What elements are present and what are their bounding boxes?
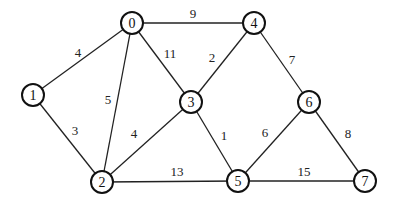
edge-weight-label: 4 [131,126,138,141]
node-1: 1 [22,84,44,106]
node-label: 3 [188,95,195,110]
edge-weight-label: 5 [105,92,112,107]
edge-weight-label: 3 [72,123,79,138]
node-label: 7 [362,174,369,189]
edge-weight-label: 13 [171,164,184,179]
node-label: 1 [30,88,37,103]
edge-weight-label: 6 [262,125,269,140]
node-label: 4 [251,16,258,31]
node-2: 2 [91,171,113,193]
edge-weight-label: 8 [345,126,352,141]
node-label: 2 [99,175,106,190]
edge-6-7 [309,102,365,181]
node-5: 5 [227,170,249,192]
edge-weight-label: 11 [164,46,177,61]
node-0: 0 [121,12,143,34]
edge-0-1 [33,23,132,95]
edge-2-5 [102,181,238,182]
graph-diagram: 9451127341681315 01234567 [0,0,395,204]
edge-1-2 [33,95,102,182]
edge-weight-label: 15 [298,164,311,179]
edge-weight-label: 1 [221,128,228,143]
node-label: 0 [129,16,136,31]
edge-0-3 [132,23,191,102]
edge-4-3 [191,23,254,102]
nodes-layer: 01234567 [22,12,376,193]
node-label: 5 [235,174,242,189]
edge-4-6 [254,23,309,102]
node-3: 3 [180,91,202,113]
edge-weight-label: 7 [289,52,296,67]
node-6: 6 [298,91,320,113]
node-label: 6 [306,95,313,110]
edge-3-5 [191,102,238,181]
edge-weight-label: 4 [75,45,82,60]
node-7: 7 [354,170,376,192]
edge-weight-label: 2 [209,50,216,65]
node-4: 4 [243,12,265,34]
edge-weight-label: 9 [190,6,197,21]
